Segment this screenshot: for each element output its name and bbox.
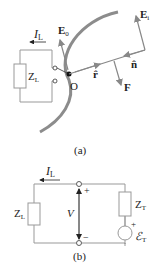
voltage-source [118,226,132,240]
svg-text:V: V [67,207,75,219]
n-hat-arrow [124,50,145,56]
surface-curve [40,12,118,132]
svg-text:r̂: r̂ [93,68,98,80]
svg-text:ZL: ZL [28,70,39,84]
svg-text:IL: IL [45,164,55,179]
svg-text:ZT: ZT [135,198,147,212]
terminal-minus [77,241,82,246]
svg-text:E0: E0 [58,24,69,38]
caption-a: (a) [74,144,87,157]
svg-text:Ei: Ei [140,8,149,22]
load-impedance-box-b [28,203,40,225]
thevenin-impedance-box [119,192,131,216]
svg-text:−: − [83,232,89,243]
svg-text:IL: IL [33,27,43,42]
antenna-diagram: IL ZL E0 O r̂ n̂ Ei F (a) ZL IL [0,0,159,269]
svg-text:O: O [70,80,78,92]
svg-text:F: F [124,81,131,93]
terminal-top [53,66,57,70]
force-arrow [114,61,121,85]
figure-b: ZL IL + − V ZT + ℰT (b) [14,164,147,263]
terminal-plus [77,182,82,187]
svg-text:n̂: n̂ [131,58,137,70]
terminal-bottom [53,79,57,83]
load-impedance-box [14,64,26,88]
svg-text:ZL: ZL [14,207,25,221]
ei-arrow [136,16,145,50]
svg-text:ℰT: ℰT [135,230,147,244]
caption-b: (b) [73,250,86,263]
svg-text:+: + [84,185,90,196]
svg-text:+: + [131,219,136,229]
figure-a: IL ZL E0 O r̂ n̂ Ei F (a) [14,8,149,157]
